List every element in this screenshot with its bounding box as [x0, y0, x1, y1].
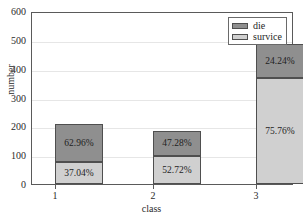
x-tick-label-3: 3 [254, 190, 259, 201]
x-tick-mark-1 [55, 185, 56, 189]
legend-item-survice[interactable]: survice [232, 31, 282, 42]
bar-segment-survice-1[interactable]: 37.04% [55, 162, 103, 184]
x-axis-title: class [0, 203, 303, 214]
bar-segment-survice-3[interactable]: 75.76% [256, 78, 303, 184]
legend-label-die: die [253, 21, 265, 31]
y-axis-tick-labels: 600 500 400 300 200 100 0 [0, 0, 31, 219]
x-tick-mark-3 [256, 185, 257, 189]
gridline-400 [32, 71, 292, 72]
y-tick-label-600: 600 [11, 7, 26, 17]
legend[interactable]: die survice [228, 17, 287, 45]
bar-class-2[interactable]: 47.28% 52.72% [153, 131, 201, 184]
legend-label-survice: survice [253, 32, 282, 42]
bar-class-3[interactable]: 24.24% 75.76% [256, 44, 303, 184]
x-tick-label-1: 1 [53, 190, 58, 201]
y-tick-label-0: 0 [21, 180, 26, 190]
legend-swatch-survice-icon [232, 34, 248, 40]
legend-item-die[interactable]: die [232, 20, 282, 31]
bar-segment-die-1[interactable]: 62.96% [55, 124, 103, 162]
bar-segment-label-survice-1: 37.04% [56, 168, 102, 178]
bar-chart: 600 500 400 300 200 100 0 number 62.96% … [0, 0, 303, 219]
bar-segment-label-die-1: 62.96% [56, 138, 102, 148]
bar-segment-label-die-2: 47.28% [154, 138, 200, 148]
bar-segment-die-3[interactable]: 24.24% [256, 44, 303, 78]
y-tick-label-100: 100 [11, 151, 26, 161]
bar-class-1[interactable]: 62.96% 37.04% [55, 124, 103, 184]
y-tick-label-500: 500 [11, 36, 26, 46]
y-tick-label-200: 200 [11, 122, 26, 132]
legend-swatch-die-icon [232, 23, 248, 29]
bar-segment-die-2[interactable]: 47.28% [153, 131, 201, 156]
bar-segment-label-survice-2: 52.72% [154, 165, 200, 175]
bar-segment-label-survice-3: 75.76% [257, 126, 303, 136]
y-axis-title: number [5, 50, 16, 110]
bar-segment-label-die-3: 24.24% [257, 56, 303, 66]
x-tick-mark-2 [153, 185, 154, 189]
gridline-300 [32, 100, 292, 101]
bar-segment-survice-2[interactable]: 52.72% [153, 156, 201, 184]
x-tick-label-2: 2 [151, 190, 156, 201]
